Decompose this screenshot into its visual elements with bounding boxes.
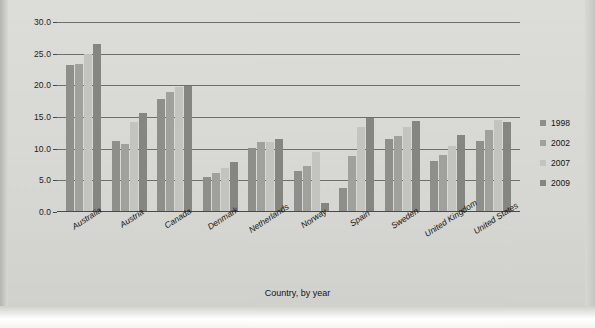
bar-norway-2002[interactable] [303,166,311,212]
bar-group [425,22,471,212]
y-axis-tick-label: 30.0 [34,17,51,27]
bar-austria-2009[interactable] [139,113,147,212]
bar-netherlands-2002[interactable] [257,142,265,212]
legend-label: 2002 [551,138,570,148]
bar-canada-1998[interactable] [157,99,165,212]
bar-united-states-2002[interactable] [485,130,493,212]
bar-spain-2009[interactable] [366,118,374,212]
bar-austria-2002[interactable] [121,144,129,212]
bar-canada-2002[interactable] [166,92,174,212]
bar-spain-2007[interactable] [357,127,365,212]
bar-australia-2002[interactable] [75,64,83,212]
legend-label: 2009 [551,178,570,188]
legend-swatch-icon [540,180,546,186]
legend-item-2007[interactable]: 2007 [540,158,570,168]
bar-australia-2009[interactable] [93,44,101,212]
bar-canada-2009[interactable] [184,86,192,212]
bar-australia-1998[interactable] [66,65,74,212]
page-edge-right [585,0,595,328]
bar-group [107,22,153,212]
bar-canada-2007[interactable] [175,87,183,212]
bar-group [380,22,426,212]
bar-austria-1998[interactable] [112,141,120,212]
y-axis-tick-label: 5.0 [39,175,51,185]
bar-sweden-2007[interactable] [403,127,411,212]
bar-netherlands-2007[interactable] [266,142,274,212]
y-axis-tick-label: 0.0 [39,207,51,217]
y-axis-tick-label: 15.0 [34,112,51,122]
bar-austria-2007[interactable] [130,122,138,212]
legend-label: 2007 [551,158,570,168]
bar-group [152,22,198,212]
y-axis-tick-label: 10.0 [34,144,51,154]
bar-group [198,22,244,212]
bar-chart: Foreign born (percentage) 0.05.010.015.0… [0,0,595,328]
legend-label: 1998 [551,118,570,128]
bar-netherlands-2009[interactable] [275,139,283,212]
bar-norway-2007[interactable] [312,152,320,212]
legend-item-1998[interactable]: 1998 [540,118,570,128]
bar-sweden-2009[interactable] [412,121,420,212]
legend: 1998200220072009 [540,118,570,188]
bar-group [61,22,107,212]
bar-sweden-1998[interactable] [385,139,393,212]
plot-area: 0.05.010.015.020.025.030.0 [57,22,520,212]
bar-denmark-1998[interactable] [203,177,211,212]
bar-united-kingdom-2007[interactable] [448,146,456,213]
bar-group [243,22,289,212]
bar-united-kingdom-1998[interactable] [430,161,438,212]
legend-swatch-icon [540,140,546,146]
bar-united-states-2009[interactable] [503,122,511,212]
legend-item-2009[interactable]: 2009 [540,178,570,188]
bar-group [334,22,380,212]
y-axis-tick-label: 20.0 [34,80,51,90]
legend-item-2002[interactable]: 2002 [540,138,570,148]
bar-united-states-1998[interactable] [476,141,484,212]
bar-united-kingdom-2009[interactable] [457,135,465,212]
bar-norway-1998[interactable] [294,171,302,212]
bar-united-kingdom-2002[interactable] [439,155,447,212]
bar-group [471,22,517,212]
bar-united-states-2007[interactable] [494,120,502,212]
legend-swatch-icon [540,120,546,126]
bar-groups [57,22,520,212]
bar-sweden-2002[interactable] [394,136,402,212]
x-axis-labels: AustraliaAustriaCanadaDenmarkNetherlands… [57,214,520,276]
y-axis-tick-label: 25.0 [34,49,51,59]
y-axis-tick-mark [53,212,57,213]
page-edge-left [0,0,8,328]
bar-netherlands-1998[interactable] [248,148,256,212]
bar-group [289,22,335,212]
bar-denmark-2002[interactable] [212,173,220,212]
page-edge-bottom [0,306,595,328]
bar-spain-1998[interactable] [339,188,347,212]
bar-australia-2007[interactable] [84,54,92,212]
bar-denmark-2007[interactable] [221,168,229,212]
bar-spain-2002[interactable] [348,156,356,212]
legend-swatch-icon [540,160,546,166]
y-axis-title: Foreign born (percentage) [16,0,26,16]
x-axis-title: Country, by year [0,288,595,298]
